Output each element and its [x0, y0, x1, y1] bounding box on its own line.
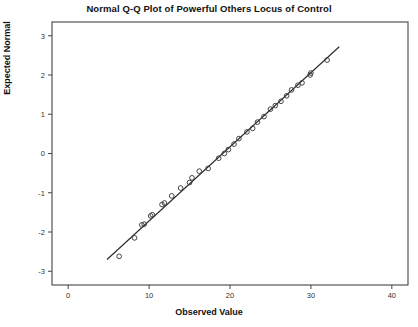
plot-area: 010203040-3-2-10123 — [0, 0, 418, 327]
y-axis-tick-label: 2 — [41, 71, 45, 80]
y-axis-tick-label: 1 — [41, 110, 45, 119]
y-axis-title: Expected Normal — [2, 0, 12, 118]
y-axis-tick-label: -2 — [38, 228, 45, 237]
plot-frame — [52, 22, 408, 285]
y-axis-tick-label: -3 — [38, 267, 45, 276]
y-axis-tick-label: -1 — [38, 189, 45, 198]
qq-plot-figure: Normal Q-Q Plot of Powerful Others Locus… — [0, 0, 418, 327]
x-axis-tick-label: 10 — [145, 291, 153, 300]
x-axis-tick-label: 0 — [66, 291, 70, 300]
x-axis-tick-label: 20 — [226, 291, 234, 300]
y-axis-tick-label: 3 — [41, 32, 45, 41]
y-axis-tick-label: 0 — [41, 149, 45, 158]
x-axis-title: Observed Value — [0, 307, 418, 317]
x-axis-tick-label: 40 — [388, 291, 396, 300]
x-axis-tick-label: 30 — [307, 291, 315, 300]
